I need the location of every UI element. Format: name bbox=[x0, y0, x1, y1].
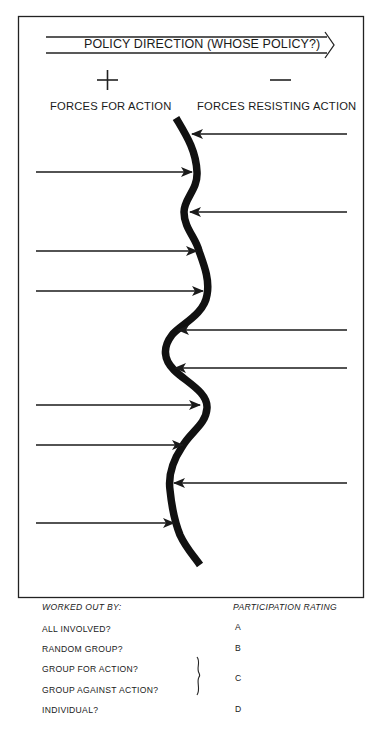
policy-direction-label: POLICY DIRECTION (WHOSE POLICY?) bbox=[84, 37, 320, 51]
row-label-random-group: RANDOM GROUP? bbox=[42, 644, 123, 654]
row-label-individual: INDIVIDUAL? bbox=[42, 705, 98, 715]
row-rating-a: A bbox=[235, 622, 241, 632]
forces-for-action-label: FORCES FOR ACTION bbox=[50, 100, 172, 112]
row-rating-b: B bbox=[235, 643, 241, 653]
row-label-group-against-action: GROUP AGAINST ACTION? bbox=[42, 685, 158, 695]
row-rating-c: C bbox=[235, 673, 242, 683]
row-label-all-involved: ALL INVOLVED? bbox=[42, 624, 111, 634]
forces-for-arrows bbox=[36, 172, 203, 523]
row-label-group-for-action: GROUP FOR ACTION? bbox=[42, 664, 138, 674]
forces-resisting-action-label: FORCES RESISTING ACTION bbox=[197, 100, 356, 112]
worked-out-by-heading: WORKED OUT BY: bbox=[42, 602, 121, 612]
equilibrium-wavy-line bbox=[165, 118, 207, 565]
brace-icon bbox=[192, 656, 206, 696]
force-field-diagram bbox=[0, 0, 378, 600]
plus-icon bbox=[97, 70, 118, 90]
row-rating-d: D bbox=[235, 704, 242, 714]
participation-rating-heading: PARTICIPATION RATING bbox=[233, 602, 337, 612]
